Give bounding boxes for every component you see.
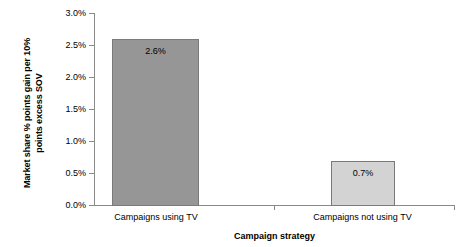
y-tick-label-0.5: 0.5% bbox=[52, 169, 86, 178]
bar-campaigns-using-tv[interactable]: 2.6% bbox=[112, 39, 199, 206]
bar-value-label: 0.7% bbox=[332, 169, 394, 178]
y-tick-label-2.0: 2.0% bbox=[52, 73, 86, 82]
x-axis-tick-mark bbox=[454, 205, 455, 210]
bar-campaigns-not-using-tv[interactable]: 0.7% bbox=[331, 161, 395, 206]
y-tick-label-0.0: 0.0% bbox=[52, 201, 86, 210]
y-tick-label-1.5: 1.5% bbox=[52, 105, 86, 114]
x-axis-title: Campaign strategy bbox=[94, 231, 455, 241]
y-axis-title: Market share % points gain per 10% point… bbox=[22, 13, 56, 213]
y-axis-title-line-1: Market share % points gain per 10% bbox=[22, 13, 34, 213]
y-tick-label-3.0: 3.0% bbox=[52, 9, 86, 18]
bar-value-label: 2.6% bbox=[113, 47, 198, 56]
y-axis-title-line-2: points excess SOV bbox=[34, 13, 46, 213]
y-tick-label-2.5: 2.5% bbox=[52, 41, 86, 50]
x-category-label-not-using-tv: Campaigns not using TV bbox=[290, 212, 435, 223]
x-category-label-using-tv: Campaigns using TV bbox=[95, 212, 217, 223]
bar-chart: Market share % points gain per 10% point… bbox=[0, 0, 476, 247]
y-axis-line bbox=[94, 13, 95, 206]
y-tick-label-1.0: 1.0% bbox=[52, 137, 86, 146]
x-axis-tick-mark bbox=[274, 205, 275, 210]
